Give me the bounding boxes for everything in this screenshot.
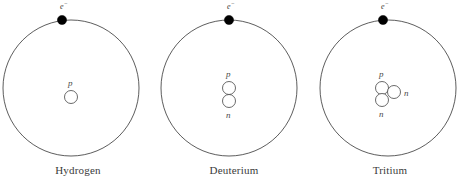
atom-caption-hydrogen: Hydrogen: [0, 164, 156, 176]
atom-diagram-deuterium: e− p n Deuterium: [156, 0, 312, 189]
neutron-circle-right: [388, 86, 401, 99]
electron-label-charge: −: [385, 0, 389, 6]
proton-circle: [223, 82, 236, 95]
proton-circle: [65, 91, 78, 104]
electron-dot: [57, 15, 66, 24]
hydrogen-svg: [0, 0, 156, 189]
atom-caption-tritium: Tritium: [312, 164, 468, 176]
atom-caption-deuterium: Deuterium: [156, 164, 312, 176]
tritium-svg: [312, 0, 468, 189]
neutron-label: n: [226, 111, 231, 120]
proton-circle: [376, 82, 389, 95]
neutron-circle: [223, 95, 236, 108]
proton-label: p: [226, 70, 231, 79]
proton-label: p: [379, 70, 384, 79]
electron-orbit-path: [3, 20, 139, 156]
electron-dot: [378, 15, 387, 24]
neutron-circle-bottom: [376, 94, 389, 107]
electron-label-charge: −: [64, 0, 68, 6]
neutron-label-right: n: [404, 89, 409, 98]
electron-label-charge: −: [231, 0, 235, 6]
atom-diagram-tritium: e− p n n Tritium: [312, 0, 468, 189]
neutron-label-bottom: n: [379, 110, 384, 119]
atom-diagram-hydrogen: e− p Hydrogen: [0, 0, 156, 189]
proton-label: p: [68, 79, 73, 88]
isotope-diagram-figure: e− p Hydrogen e− p n Deuterium e− p n n …: [0, 0, 468, 189]
electron-label: e−: [381, 3, 389, 11]
electron-label: e−: [227, 3, 235, 11]
deuterium-svg: [156, 0, 312, 189]
electron-dot: [224, 15, 233, 24]
electron-label: e−: [60, 3, 68, 11]
